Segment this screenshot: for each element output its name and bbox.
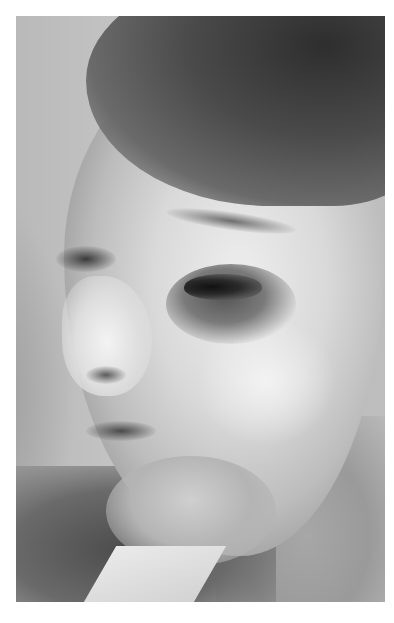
mouth [86, 421, 156, 441]
far-eye [56, 246, 116, 272]
nostril [86, 366, 126, 384]
eye [184, 274, 262, 300]
face-photograph [16, 16, 385, 602]
